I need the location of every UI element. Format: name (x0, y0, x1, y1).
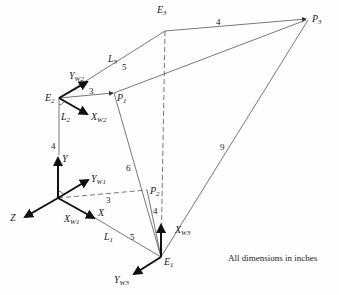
kinematic-diagram: E3 P3 E2 P1 P2 E1 L3 L2 L1 YW2 XW2 Y YW1… (0, 0, 339, 295)
label-P1: P1 (116, 92, 127, 105)
frame-base (25, 158, 94, 218)
line-E3-P3 (165, 19, 306, 31)
dashed-E0-P2 (58, 190, 147, 198)
dim-E2-P1: 3 (89, 86, 94, 96)
label-Xw1: XW1 (63, 213, 79, 226)
dim-E3-P3: 4 (216, 17, 221, 27)
dim-E2-E3: 5 (122, 62, 127, 72)
label-E3: E3 (156, 4, 167, 17)
line-P3-E1 (161, 20, 308, 257)
label-Z: Z (10, 212, 16, 223)
label-Yw3: YW3 (114, 274, 129, 287)
dim-E0-E1: 5 (130, 232, 135, 242)
label-Yw1: YW1 (91, 173, 106, 186)
line-P2-E1 (147, 190, 161, 257)
dim-E0-E2: 4 (51, 141, 56, 151)
frame-w3 (134, 225, 161, 274)
dim-P2-E1: 4 (153, 206, 158, 216)
label-Xw3: XW3 (174, 224, 191, 237)
label-P2: P2 (149, 185, 160, 198)
line-E0-E1 (90, 215, 161, 257)
label-Y: Y (62, 153, 69, 164)
dashed-E3-E1 (161, 31, 165, 257)
label-L1: L1 (103, 231, 113, 244)
dim-P3-E1: 9 (220, 142, 225, 152)
angle-arc-E2 (59, 102, 64, 105)
axis-yw1 (58, 180, 88, 198)
units-note: All dimensions in inches (228, 253, 318, 263)
dim-P1-E1: 6 (126, 163, 131, 173)
label-X: X (97, 207, 105, 218)
label-Yw2: YW2 (69, 70, 84, 83)
label-E1: E1 (163, 256, 174, 269)
link-lines (58, 19, 308, 257)
line-P1-E1 (114, 93, 161, 257)
label-Xw2: XW2 (90, 111, 107, 124)
axis-z (25, 198, 58, 217)
line-P1-P3 (114, 20, 306, 93)
label-L2: L2 (60, 111, 71, 124)
label-E2: E2 (44, 92, 55, 105)
axis-yw3 (134, 257, 161, 274)
label-P3: P3 (311, 13, 322, 26)
dim-E0-P2: 3 (106, 195, 111, 205)
